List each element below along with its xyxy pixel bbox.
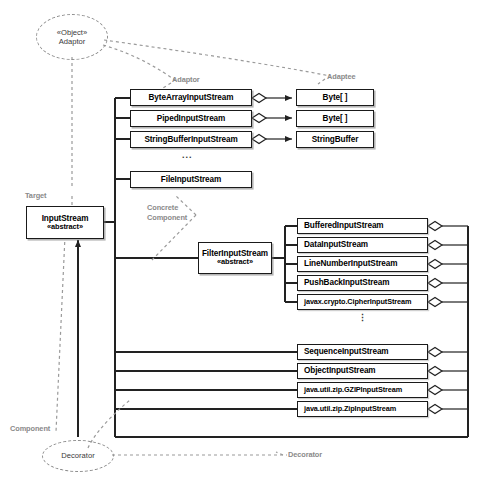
class-box-filterinputstream[interactable]: FilterInputStream «abstract» xyxy=(198,242,272,274)
class-box-zipinputstream[interactable]: java.util.zip.ZipInputStream xyxy=(297,401,428,417)
bytearray-adaptee-1-label: Byte[ ] xyxy=(323,93,348,102)
class-box-linenumberinputstream[interactable]: LineNumberInputStream xyxy=(297,256,428,272)
fileinputstream-label: FileInputStream xyxy=(161,175,221,184)
class-box-datainputstream[interactable]: DataInputStream xyxy=(297,237,428,253)
pushbackinputstream-label: PushBackInputStream xyxy=(304,278,389,287)
decorator-role-label-right: Decorator xyxy=(288,450,322,459)
bufferedinputstream-label: BufferedInputStream xyxy=(304,221,384,230)
decorator-ellipse-label: Decorator xyxy=(61,451,94,460)
class-box-objectinputstream[interactable]: ObjectInputStream xyxy=(297,363,428,379)
stringbufferinputstream-label: StringBufferInputStream xyxy=(144,135,237,144)
class-box-sequenceinputstream[interactable]: SequenceInputStream xyxy=(297,344,428,360)
class-box-stringbufferinputstream[interactable]: StringBufferInputStream xyxy=(130,131,252,148)
cipherinputstream-label: javax.crypto.CipherInputStream xyxy=(304,298,411,306)
inputstream-stereotype: «abstract» xyxy=(47,223,83,232)
class-box-bytearrayinputstream[interactable]: ByteArrayInputStream xyxy=(130,89,252,106)
pipedinputstream-label: PipedInputStream xyxy=(157,114,225,123)
zipinputstream-label: java.util.zip.ZipInputStream xyxy=(304,405,396,413)
gzipinputstream-label: java.util.zip.GZIPInputStream xyxy=(304,386,402,394)
class-box-bufferedinputstream[interactable]: BufferedInputStream xyxy=(297,218,428,234)
datainputstream-label: DataInputStream xyxy=(304,240,368,249)
object-adaptor-name: Adaptor xyxy=(59,37,86,46)
concrete-component-line-1: Concrete xyxy=(147,203,187,213)
component-role-label: Component xyxy=(10,424,50,433)
adaptor-list-ellipsis: ... xyxy=(182,150,193,160)
uml-class-diagram: «Object» Adaptor Decorator Adaptor Adapt… xyxy=(0,0,484,495)
concrete-component-line-2: Component xyxy=(147,213,187,223)
sequenceinputstream-label: SequenceInputStream xyxy=(304,347,389,356)
filterinputstream-stereotype: «abstract» xyxy=(217,258,253,267)
class-box-fileinputstream[interactable]: FileInputStream xyxy=(130,171,252,188)
adaptee-role-label: Adaptee xyxy=(327,72,355,81)
bytearray-adaptee-2-label: Byte[ ] xyxy=(323,114,348,123)
class-box-gzipinputstream[interactable]: java.util.zip.GZIPInputStream xyxy=(297,382,428,398)
decorator-pattern-ellipse: Decorator xyxy=(42,440,114,472)
bytearrayinputstream-label: ByteArrayInputStream xyxy=(149,93,234,102)
linenumberinputstream-label: LineNumberInputStream xyxy=(304,259,397,268)
object-adaptor-stereotype: «Object» xyxy=(57,28,87,37)
class-box-bytearray-adaptee-2[interactable]: Byte[ ] xyxy=(296,110,374,127)
object-adaptor-pattern-ellipse: «Object» Adaptor xyxy=(36,14,108,60)
objectinputstream-label: ObjectInputStream xyxy=(304,366,376,375)
class-box-cipherinputstream[interactable]: javax.crypto.CipherInputStream xyxy=(297,294,428,310)
class-box-inputstream[interactable]: InputStream «abstract» xyxy=(26,206,104,239)
target-role-label: Target xyxy=(25,191,46,200)
concrete-component-role-label: Concrete Component xyxy=(147,203,187,222)
class-box-pipedinputstream[interactable]: PipedInputStream xyxy=(130,110,252,127)
class-box-stringbuffer-adaptee[interactable]: StringBuffer xyxy=(296,131,374,148)
stringbuffer-adaptee-label: StringBuffer xyxy=(312,135,359,144)
class-box-pushbackinputstream[interactable]: PushBackInputStream xyxy=(297,275,428,291)
adaptor-role-label: Adaptor xyxy=(172,75,200,84)
class-box-bytearray-adaptee-1[interactable]: Byte[ ] xyxy=(296,89,374,106)
decorator-list-ellipsis: ⋮ xyxy=(356,316,368,321)
